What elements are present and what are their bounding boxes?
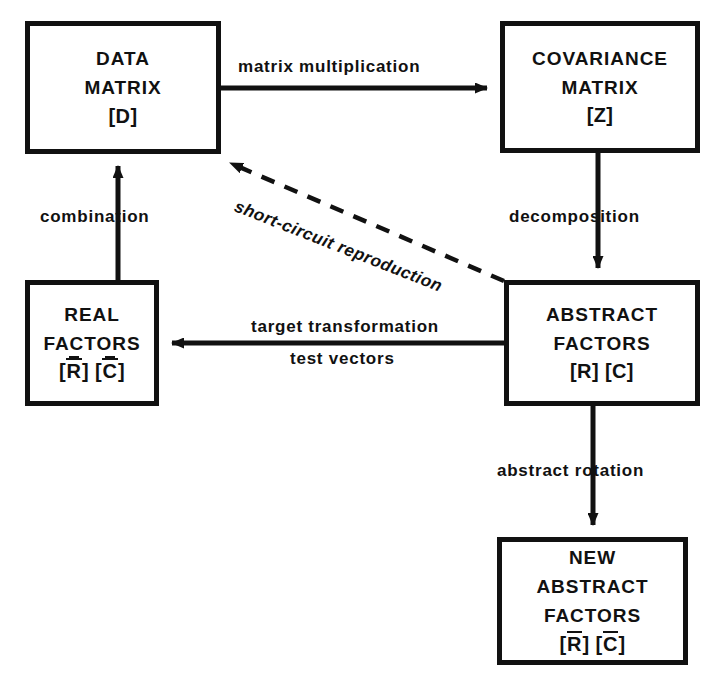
node-data-matrix-line2: MATRIX [84, 74, 161, 103]
edge-label-target-transformation: target transformation [251, 318, 439, 337]
node-abstract-factors-symbol: [R] [C] [570, 358, 634, 385]
node-real-factors-line1: REAL [64, 301, 120, 330]
bracket-close: ] [582, 633, 589, 655]
node-abstract-factors-line1: ABSTRACT [546, 301, 658, 330]
edge-label-decomposition: decomposition [509, 208, 640, 227]
bracket-close: ] [618, 633, 625, 655]
node-covariance-matrix-line2: MATRIX [561, 74, 638, 103]
bracket-close: ] [82, 360, 89, 382]
edge-label-matrix-multiplication: matrix multiplication [238, 58, 420, 77]
edge-label-combination: combination [40, 208, 149, 227]
matrix-r-double-bar: R [66, 358, 82, 382]
node-new-abstract-factors-line3: FACTORS [544, 602, 641, 631]
diagram-canvas: DATA MATRIX [D] COVARIANCE MATRIX [Z] RE… [0, 0, 709, 688]
node-new-abstract-factors[interactable]: NEW ABSTRACT FACTORS [R] [C] [497, 537, 688, 665]
node-real-factors-symbol: [R] [C] [59, 358, 125, 385]
matrix-c-double-bar: C [102, 358, 118, 382]
node-abstract-factors-line2: FACTORS [553, 330, 650, 359]
node-new-abstract-factors-line2: ABSTRACT [536, 573, 648, 602]
edge-label-test-vectors: test vectors [290, 350, 395, 369]
matrix-r-bar: R [567, 631, 583, 655]
node-real-factors[interactable]: REAL FACTORS [R] [C] [25, 280, 159, 406]
bracket-close: ] [118, 360, 125, 382]
bracket-open: [ [595, 633, 602, 655]
node-covariance-matrix-line1: COVARIANCE [532, 45, 668, 74]
node-data-matrix-symbol: [D] [109, 103, 138, 130]
node-new-abstract-factors-line1: NEW [569, 544, 616, 573]
node-real-factors-line2: FACTORS [43, 330, 140, 359]
node-covariance-matrix-symbol: [Z] [587, 102, 614, 129]
node-abstract-factors[interactable]: ABSTRACT FACTORS [R] [C] [504, 280, 700, 406]
bracket-open: [ [95, 360, 102, 382]
node-data-matrix[interactable]: DATA MATRIX [D] [25, 21, 221, 154]
node-data-matrix-line1: DATA [96, 45, 150, 74]
bracket-open: [ [560, 633, 567, 655]
matrix-c-bar: C [603, 631, 619, 655]
node-covariance-matrix[interactable]: COVARIANCE MATRIX [Z] [500, 21, 700, 153]
node-new-abstract-factors-symbol: [R] [C] [560, 631, 626, 658]
edge-label-abstract-rotation: abstract rotation [497, 462, 644, 481]
